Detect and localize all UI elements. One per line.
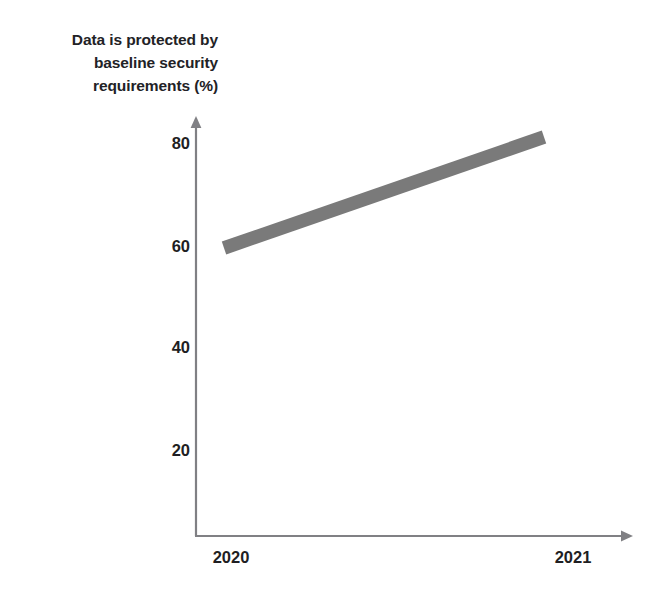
- y-tick-label-60: 60: [140, 236, 190, 256]
- x-tick-label-2020: 2020: [191, 546, 271, 568]
- plot-area: [0, 0, 656, 596]
- y-axis-arrow-icon: [191, 116, 202, 128]
- y-tick-label-20: 20: [140, 440, 190, 460]
- chart-figure: Data is protected by baseline security r…: [0, 0, 656, 596]
- data-series-line: [224, 137, 544, 248]
- x-axis-arrow-icon: [621, 531, 633, 542]
- y-axis: [191, 116, 202, 536]
- x-axis: [195, 531, 633, 542]
- y-tick-label-80: 80: [140, 133, 190, 153]
- y-tick-label-40: 40: [140, 337, 190, 357]
- x-tick-label-2021: 2021: [533, 546, 613, 568]
